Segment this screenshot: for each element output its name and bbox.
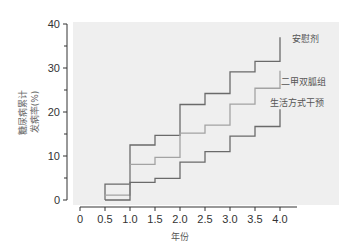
series-label-metformin: 二甲双胍组 [281,76,326,87]
x-tick-label: 3.5 [247,213,262,225]
x-tick-label: 2.5 [197,213,212,225]
y-axis-label-line2: 发病率(%) [29,91,40,134]
y-axis-label-line1: 糖尿病累计 [17,90,28,135]
plot-background [73,22,339,205]
x-tick-label: 0.5 [97,213,112,225]
x-tick-label: 1.0 [122,213,137,225]
x-axis-label: 年份 [171,231,189,242]
x-tick-label: 0 [77,213,83,225]
x-tick-label: 3.0 [222,213,237,225]
y-tick-label: 20 [48,106,60,118]
x-tick-label: 4.0 [272,213,287,225]
x-tick-label: 2.0 [172,213,187,225]
x-tick-label: 1.5 [147,213,162,225]
cumulative-incidence-chart: 01020304000.51.01.52.02.53.03.54.0 安慰剂 二… [0,0,356,250]
y-tick-label: 40 [48,18,60,30]
y-tick-label: 10 [48,150,60,162]
series-label-placebo: 安慰剂 [292,33,319,44]
series-label-lifestyle: 生活方式干预 [270,97,324,108]
y-tick-label: 30 [48,62,60,74]
y-tick-label: 0 [54,194,60,206]
